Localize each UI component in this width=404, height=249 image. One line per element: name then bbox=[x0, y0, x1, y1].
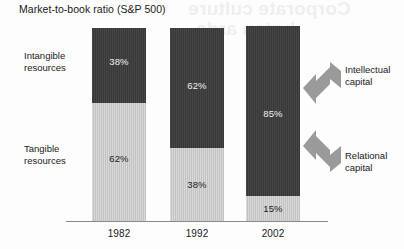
bar-1992-intangible-value: 62% bbox=[170, 80, 224, 91]
plot-area: 38% 62% 62% 38% 85% 15% 1 bbox=[0, 0, 404, 249]
callout-label-intellectual-capital: Intellectual capital bbox=[345, 64, 404, 87]
bar-1982-intangible-value: 38% bbox=[92, 56, 146, 67]
bar-2002: 85% 15% bbox=[246, 26, 300, 221]
bar-2002-tangible-value: 15% bbox=[246, 203, 300, 214]
bar-2002-segment-intangible: 85% bbox=[246, 26, 300, 196]
bar-2002-segment-tangible: 15% bbox=[246, 196, 300, 221]
x-axis-label-1992: 1992 bbox=[170, 228, 224, 239]
bar-1992-tangible-value: 38% bbox=[170, 179, 224, 190]
legend-label-tangible-resources: Tangible resources bbox=[24, 143, 90, 166]
chart-figure: Corporate culture boten arde Market-to-b… bbox=[0, 0, 404, 249]
callout-label-relational-capital: Relational capital bbox=[345, 150, 404, 173]
bar-1982: 38% 62% bbox=[92, 28, 146, 221]
bar-1982-tangible-value: 62% bbox=[92, 153, 146, 164]
bent-arrow-up-right-icon bbox=[303, 62, 343, 106]
bar-1982-segment-tangible: 62% bbox=[92, 103, 146, 221]
x-axis-line bbox=[66, 221, 328, 222]
bar-1992-segment-intangible: 62% bbox=[170, 28, 224, 148]
bar-2002-intangible-value: 85% bbox=[246, 108, 300, 119]
bar-1992: 62% 38% bbox=[170, 28, 224, 221]
legend-label-intangible-resources: Intangible resources bbox=[24, 50, 90, 73]
bent-arrow-down-right-icon bbox=[303, 128, 343, 172]
bar-1982-segment-intangible: 38% bbox=[92, 28, 146, 103]
bar-1992-segment-tangible: 38% bbox=[170, 148, 224, 221]
x-axis-label-2002: 2002 bbox=[246, 228, 300, 239]
x-axis-label-1982: 1982 bbox=[92, 228, 146, 239]
